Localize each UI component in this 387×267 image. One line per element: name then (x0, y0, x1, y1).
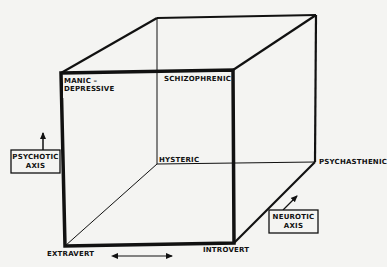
neurotic-axis-label: NEUROTIC (273, 213, 315, 221)
arrow-diagonal-icon (283, 196, 297, 210)
psychotic-axis-label-line2: AXIS (26, 162, 45, 170)
cube-outer-edges (61, 15, 316, 243)
neurotic-axis-label-line2: AXIS (284, 222, 303, 230)
psychotic-axis-label: PSYCHOTIC (12, 153, 58, 161)
back-top-edge (157, 15, 316, 18)
label-psychasthenic: PSYCHASTHENIC (319, 158, 387, 166)
label-extravert: EXTRAVERT (47, 250, 94, 258)
top-right-depth-edge (233, 15, 316, 70)
label-introvert: INTROVERT (203, 246, 249, 254)
label-hysteric: HYSTERIC (159, 156, 199, 164)
personality-cube-diagram: MANIC – DEPRESSIVE SCHIZOPHRENIC HYSTERI… (0, 0, 387, 267)
top-left-depth-edge (61, 18, 157, 73)
label-manic-depressive-line2: DEPRESSIVE (64, 85, 114, 93)
label-manic-depressive: MANIC – (64, 77, 98, 85)
back-right-vertical-edge (315, 15, 316, 162)
bottom-left-depth-edge (65, 164, 157, 246)
psychotic-axis-callout: PSYCHOTIC AXIS (11, 133, 60, 173)
label-schizophrenic: SCHIZOPHRENIC (164, 75, 231, 83)
